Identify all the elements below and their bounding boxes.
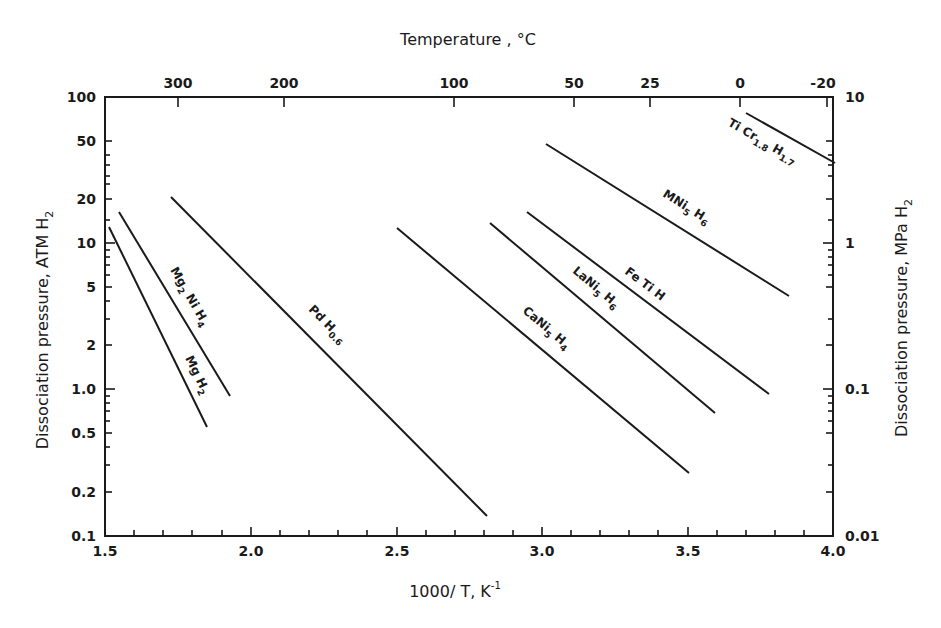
y-tick-label: 2 xyxy=(86,337,96,353)
x-axis-ticks xyxy=(134,527,804,536)
chart: 1.5 2.0 2.5 3.0 3.5 4.0 300 200 100 50 2… xyxy=(0,0,941,628)
left-axis-title: Dissociation pressure, ATM H2 xyxy=(33,211,56,450)
right-axis-ticks xyxy=(823,141,833,492)
series-lani5h6 xyxy=(490,223,715,413)
label-lani5h6: LaNi5 H6 xyxy=(568,264,622,313)
x-tick-label: 2.0 xyxy=(239,543,264,559)
series-cani5h4 xyxy=(397,228,689,473)
x-tick-label: 1.5 xyxy=(93,543,118,559)
y-tick-label: 0.5 xyxy=(71,425,96,441)
label-ticr1.8h1.7: Ti Cr1.8 H1.7 xyxy=(724,115,799,168)
top-tick-label: 0 xyxy=(735,75,745,91)
y-tick-label: 50 xyxy=(77,133,97,149)
top-tick-label: -20 xyxy=(810,75,836,91)
top-tick-label: 300 xyxy=(163,75,192,91)
y-tick-label: 5 xyxy=(86,279,96,295)
y2-tick-label: 1 xyxy=(845,235,855,251)
y2-tick-label: 0.1 xyxy=(845,381,870,397)
label-mg2nih4: Mg2 Ni H4 xyxy=(165,265,213,330)
y2-tick-label: 0.01 xyxy=(845,528,880,544)
series-lines xyxy=(109,113,835,516)
label-fetih: Fe Ti H xyxy=(622,264,668,303)
right-axis-title: Dissociation pressure, MPa H2 xyxy=(892,199,915,437)
left-axis-ticks xyxy=(105,141,115,492)
top-axis-ticks xyxy=(178,97,827,107)
label-cani5h4: CaNi5 H4 xyxy=(518,304,573,354)
series-mgh2 xyxy=(109,227,207,427)
y-tick-label: 0.1 xyxy=(71,528,96,544)
y2-tick-label: 10 xyxy=(845,89,865,105)
series-pdh0.6 xyxy=(171,197,487,516)
y-tick-label: 10 xyxy=(77,235,97,251)
top-tick-label: 200 xyxy=(269,75,298,91)
series-labels: Mg2 Ni H4 Mg H2 Pd H0.6 CaNi5 H4 LaNi5 H… xyxy=(165,115,800,397)
plot-frame xyxy=(105,97,833,536)
x-tick-labels: 1.5 2.0 2.5 3.0 3.5 4.0 xyxy=(93,543,846,559)
y-tick-label: 20 xyxy=(77,191,97,207)
bottom-axis-title: 1000/ T, K-1 xyxy=(409,580,501,601)
left-tick-labels: 100 50 20 10 5 2 1.0 0.5 0.2 0.1 xyxy=(67,89,96,544)
top-tick-labels: 300 200 100 50 25 0 -20 xyxy=(163,75,836,91)
top-tick-label: 50 xyxy=(564,75,584,91)
label-mni5h6: MNi5 H6 xyxy=(659,187,713,229)
y-tick-label: 100 xyxy=(67,89,96,105)
label-pdh0.6: Pd H0.6 xyxy=(304,302,350,348)
x-tick-label: 3.5 xyxy=(676,543,701,559)
top-tick-label: 100 xyxy=(439,75,468,91)
x-tick-label: 4.0 xyxy=(821,543,846,559)
x-tick-label: 3.0 xyxy=(530,543,555,559)
y-tick-label: 0.2 xyxy=(71,484,96,500)
right-tick-labels: 10 1 0.1 0.01 xyxy=(845,89,880,544)
y-tick-label: 1.0 xyxy=(71,381,96,397)
top-axis-title: Temperature , °C xyxy=(399,30,536,49)
top-tick-label: 25 xyxy=(640,75,659,91)
x-tick-label: 2.5 xyxy=(385,543,410,559)
